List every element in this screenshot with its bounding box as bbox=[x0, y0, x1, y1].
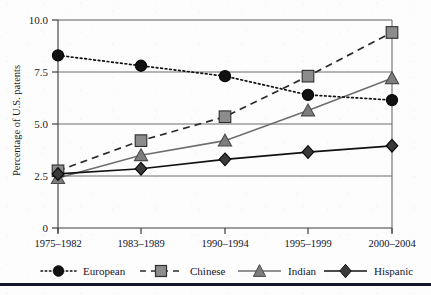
y-tick-label-5: 5.0 bbox=[34, 118, 48, 130]
y-tick-label-2-5: 2.5 bbox=[34, 170, 48, 182]
square-marker bbox=[386, 27, 398, 39]
x-tick-label-2: 1990–1994 bbox=[201, 238, 249, 249]
legend-label-hispanic: Hispanic bbox=[374, 265, 413, 277]
circle-marker bbox=[52, 50, 63, 61]
circle-marker bbox=[386, 94, 397, 105]
x-tick-label-1: 1983–1989 bbox=[117, 238, 164, 249]
chart-canvas: 10.0 7.5 5.0 2.5 0 Percentage of U.S. pa… bbox=[0, 0, 431, 295]
circle-marker bbox=[302, 89, 313, 100]
legend-label-european: European bbox=[83, 265, 126, 277]
square-marker bbox=[219, 111, 231, 123]
x-tick-label-4: 2000–2004 bbox=[368, 238, 416, 249]
y-axis-title: Percentage of U.S. patents bbox=[11, 65, 22, 176]
circle-icon bbox=[53, 266, 64, 277]
square-icon bbox=[156, 266, 167, 277]
y-tick-label-10: 10.0 bbox=[29, 14, 49, 26]
legend-label-chinese: Chinese bbox=[190, 265, 226, 277]
patent-share-line-chart-figure: 10.0 7.5 5.0 2.5 0 Percentage of U.S. pa… bbox=[0, 0, 431, 295]
square-marker bbox=[135, 135, 147, 147]
square-marker bbox=[302, 70, 314, 82]
x-tick-label-3: 1995–1999 bbox=[284, 238, 331, 249]
y-tick-label-7-5: 7.5 bbox=[34, 66, 48, 78]
circle-marker bbox=[135, 60, 146, 71]
page-bottom-rule bbox=[0, 283, 431, 286]
circle-marker bbox=[219, 71, 230, 82]
legend-label-indian: Indian bbox=[288, 265, 317, 277]
x-tick-label-0: 1975–1982 bbox=[34, 238, 81, 249]
y-tick-label-0: 0 bbox=[43, 222, 49, 234]
